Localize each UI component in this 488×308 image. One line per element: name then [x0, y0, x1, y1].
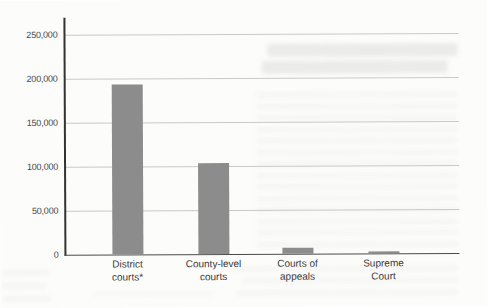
y-tick-label-100000: 100,000: [18, 162, 58, 172]
y-tick-label-250000: 250,000: [17, 30, 57, 40]
y-tick-labels: 050,000100,000150,000200,000250,000: [0, 0, 486, 1]
x-label-line: District: [79, 258, 175, 271]
x-label-supreme-court: SupremeCourt: [335, 257, 431, 282]
y-tick-label-50000: 50,000: [18, 206, 58, 216]
gridline-250000: [64, 33, 458, 36]
x-label-line: County-level: [165, 258, 261, 271]
x-label-district-courts: Districtcourts*: [79, 258, 175, 283]
x-label-courts-of-appeals: Courts ofappeals: [249, 258, 345, 283]
x-label-line: courts*: [80, 271, 176, 284]
x-category-labels: Districtcourts*County-levelcourtsCourts …: [0, 0, 486, 1]
bar-county-level-courts: [198, 163, 229, 254]
bar-chart-figure: 050,000100,000150,000200,000250,000 Dist…: [0, 0, 488, 308]
x-label-line: Supreme: [335, 257, 431, 270]
y-axis-line: [63, 18, 66, 256]
x-label-line: appeals: [250, 270, 346, 283]
bar-courts-of-appeals: [282, 248, 313, 254]
y-tick-label-0: 0: [18, 250, 58, 260]
y-tick-label-150000: 150,000: [18, 118, 58, 128]
gridlines: [0, 0, 486, 1]
plot-area: 050,000100,000150,000200,000250,000 Dist…: [0, 0, 488, 308]
x-label-line: courts: [166, 270, 262, 283]
x-label-line: Courts of: [249, 258, 345, 271]
bar-supreme-court: [368, 251, 399, 253]
x-label-line: Court: [336, 270, 432, 283]
x-label-county-level-courts: County-levelcourts: [165, 258, 261, 283]
y-tick-label-200000: 200,000: [18, 74, 58, 84]
gridline-200000: [65, 77, 459, 80]
bar-district-courts: [111, 85, 143, 255]
bars: [0, 0, 486, 1]
